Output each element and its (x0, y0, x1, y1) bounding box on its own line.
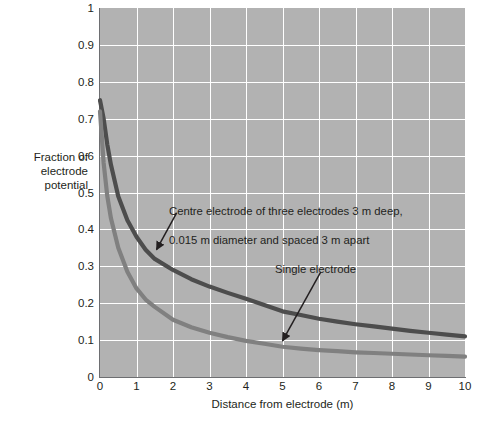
x-tick-label: 0 (88, 381, 112, 393)
x-tick-label: 5 (271, 381, 295, 393)
x-tick-label: 7 (344, 381, 368, 393)
y-tick-label: 0.9 (60, 40, 94, 52)
y-tick-label: 0.8 (60, 77, 94, 89)
y-axis-title: Fraction of electrode potential (0, 150, 88, 192)
x-tick-label: 6 (307, 381, 331, 393)
annotation-line: 0.015 m diameter and spaced 3 m apart (169, 233, 459, 248)
y-tick-label: 0.4 (60, 224, 94, 236)
gridline-horizontal (100, 119, 465, 120)
annotation-single-electrode: Single electrode (275, 262, 395, 277)
y-tick-label: 0.3 (60, 261, 94, 273)
annotation-line: Centre electrode of three electrodes 3 m… (169, 204, 459, 219)
gridline-horizontal (100, 82, 465, 83)
x-tick-label: 8 (380, 381, 404, 393)
x-tick-label: 3 (198, 381, 222, 393)
y-axis-title-line: electrode (0, 164, 88, 178)
x-tick-label: 1 (125, 381, 149, 393)
annotation-centre-electrode: Centre electrode of three electrodes 3 m… (169, 189, 459, 262)
y-axis-title-line: Fraction of (0, 150, 88, 164)
x-axis-line (99, 377, 466, 378)
x-tick-label: 10 (453, 381, 477, 393)
y-tick-label: 0.1 (60, 335, 94, 347)
gridline-horizontal (100, 45, 465, 46)
x-axis-title: Distance from electrode (m) (100, 398, 465, 410)
gridline-horizontal (100, 303, 465, 304)
x-tick-label: 2 (161, 381, 185, 393)
gridline-horizontal (100, 156, 465, 157)
y-tick-label: 0.7 (60, 114, 94, 126)
y-tick-label: 0.2 (60, 298, 94, 310)
x-tick-label: 4 (234, 381, 258, 393)
gridline-horizontal (100, 340, 465, 341)
y-tick-label: 1 (60, 3, 94, 15)
chart-figure: 1 0.9 0.8 0.7 0.6 0.5 0.4 0.3 0.2 0.1 0 … (0, 0, 479, 423)
y-axis-line (99, 8, 100, 378)
y-axis-title-line: potential (0, 178, 88, 192)
x-tick-label: 9 (417, 381, 441, 393)
